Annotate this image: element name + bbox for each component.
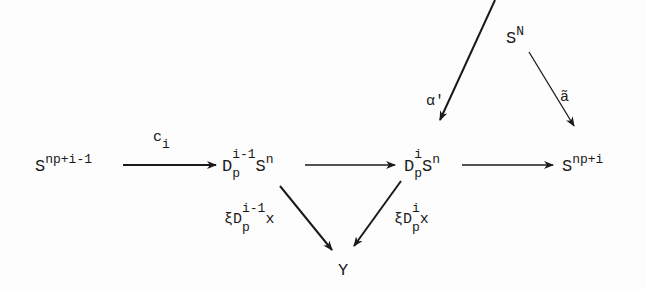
arrow-xi-dp-i-minus-1	[280, 186, 332, 250]
node-sub: p	[414, 167, 422, 180]
commutative-diagram: Snp+i-1 ci Di-1i-1pSn DiipSn Snp+i SN α'…	[0, 0, 646, 290]
script-stack: i-1i-1p	[242, 212, 265, 227]
node-sup: N	[516, 24, 524, 39]
label-xi-dp-i-minus-1-x: ξDi-1i-1px	[224, 212, 274, 227]
label-ci: ci	[153, 130, 170, 145]
node-base: S	[562, 157, 572, 176]
node-tail-base: S	[256, 157, 266, 176]
label-sub: p	[242, 221, 250, 234]
label-prefix: ξD	[394, 211, 412, 228]
node-base: D	[222, 157, 232, 176]
diagram-arrows	[0, 0, 646, 290]
node-s-N: SN	[506, 30, 524, 47]
node-s-np-i-minus-1: Snp+i-1	[35, 158, 92, 175]
node-tail-sup: n	[266, 152, 274, 167]
node-tail-base: S	[422, 157, 432, 176]
label-tail: x	[265, 211, 274, 228]
node-dp-i-minus-1-sn: Di-1i-1pSn	[222, 158, 274, 175]
node-sup: np+i	[572, 152, 603, 167]
label-base: c	[153, 129, 162, 146]
script-stack: iip	[412, 212, 420, 227]
label-prefix: ξD	[224, 211, 242, 228]
label-sub: i	[162, 137, 170, 152]
script-stack: iip	[414, 158, 422, 175]
node-sup: i-1	[232, 148, 255, 161]
label-sup: i-1	[242, 202, 265, 215]
script-stack: i-1i-1p	[232, 158, 255, 175]
node-dp-i-sn: DiipSn	[404, 158, 440, 175]
label-xi-dp-i-x: ξDiipx	[394, 212, 429, 227]
node-s-np-i: Snp+i	[562, 158, 603, 175]
label-base: ã	[560, 89, 569, 106]
label-sub: p	[412, 221, 420, 234]
label-base: α'	[426, 93, 444, 110]
node-base: S	[506, 29, 516, 48]
node-tail-sup: n	[432, 152, 440, 167]
node-base: S	[35, 157, 45, 176]
node-y: Y	[338, 262, 348, 279]
label-alpha-prime: α'	[426, 94, 444, 109]
label-a-tilde: ã	[560, 90, 569, 105]
label-tail: x	[420, 211, 429, 228]
arrow-alpha-prime	[440, 0, 495, 120]
node-base: D	[404, 157, 414, 176]
label-sup: i	[412, 202, 420, 215]
node-sup: np+i-1	[45, 152, 92, 167]
node-sup: i	[414, 148, 422, 161]
node-base: Y	[338, 261, 348, 280]
node-sub: p	[232, 167, 240, 180]
